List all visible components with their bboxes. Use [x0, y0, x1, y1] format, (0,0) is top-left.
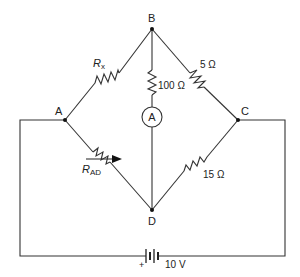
battery-polarity-plus: +: [139, 260, 144, 270]
rad-label: RAD: [82, 163, 101, 177]
resistor-100-ohm: [148, 29, 156, 107]
r-bc-label: 5 Ω: [200, 59, 216, 70]
resistor-15-ohm: [152, 120, 238, 210]
battery: [146, 249, 158, 263]
rx-label: Rx: [93, 57, 105, 71]
node-a-dot: [63, 118, 67, 122]
variable-arrow-icon: [112, 155, 122, 163]
node-d-label: D: [148, 215, 156, 227]
resistor-5-ohm: [152, 29, 238, 120]
r-bd-label: 100 Ω: [158, 80, 185, 91]
node-b-label: B: [148, 12, 155, 24]
r-cd-label: 15 Ω: [203, 169, 225, 180]
node-d-dot: [150, 208, 154, 212]
wheatstone-bridge-diagram: Rx 5 Ω 100 Ω A RAD 15 Ω: [0, 0, 300, 277]
node-b-dot: [150, 27, 154, 31]
resistor-rx: [65, 29, 152, 120]
node-c-label: C: [241, 105, 249, 117]
ammeter: A: [142, 107, 162, 210]
node-c-dot: [236, 118, 240, 122]
ammeter-label: A: [148, 111, 156, 123]
node-a-label: A: [55, 105, 63, 117]
battery-voltage-label: 10 V: [165, 259, 186, 270]
variable-resistor-rad: [65, 120, 152, 210]
